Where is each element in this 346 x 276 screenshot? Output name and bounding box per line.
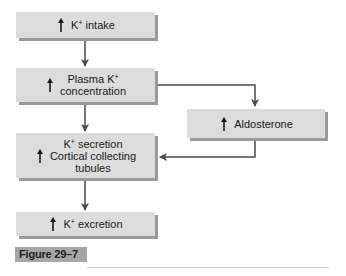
node-plasma-k-concentration: Plasma K+ concentration	[16, 68, 155, 102]
increase-arrow-icon	[45, 77, 55, 93]
arrow-aldosterone-to-secretion	[160, 141, 255, 157]
node-label: Plasma K+ concentration	[60, 73, 126, 97]
increase-arrow-icon	[48, 216, 58, 232]
node-k-excretion: K+ excretion	[16, 212, 155, 236]
figure-label: Figure 29–7	[15, 247, 87, 262]
node-k-intake: K+ intake	[16, 12, 155, 38]
node-label: K+ intake	[71, 19, 115, 31]
increase-arrow-icon	[56, 17, 66, 33]
figure-rule-divider	[87, 267, 329, 268]
node-label: K+ secretion Cortical collecting tubules	[50, 138, 136, 174]
increase-arrow-icon	[35, 148, 45, 164]
increase-arrow-icon	[219, 116, 229, 132]
node-label: Aldosterone	[234, 118, 293, 130]
arrow-plasma-to-aldosterone	[158, 85, 255, 106]
node-label: K+ excretion	[63, 218, 122, 230]
node-k-secretion: K+ secretion Cortical collecting tubules	[16, 133, 155, 178]
node-aldosterone: Aldosterone	[187, 109, 325, 138]
